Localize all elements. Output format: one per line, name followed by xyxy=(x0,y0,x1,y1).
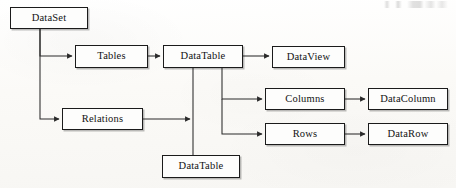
node-tables-label: Tables xyxy=(97,51,125,62)
node-datatable-child[interactable]: DataTable xyxy=(162,155,240,178)
node-datacolumn-label: DataColumn xyxy=(380,93,436,104)
node-datarow[interactable]: DataRow xyxy=(368,123,448,145)
edge-datatable-to-columns xyxy=(222,68,262,99)
edge-datatable-to-rows xyxy=(222,99,262,134)
diagram-canvas: DataSet Tables DataTable DataView Column… xyxy=(0,0,456,188)
node-relations-label: Relations xyxy=(82,113,123,124)
node-datacolumn[interactable]: DataColumn xyxy=(368,88,448,110)
node-relations[interactable]: Relations xyxy=(62,108,143,130)
node-rows[interactable]: Rows xyxy=(265,123,345,145)
node-columns-label: Columns xyxy=(285,93,324,104)
node-dataview-label: DataView xyxy=(287,51,331,62)
edge-dataset-to-tables xyxy=(40,29,72,56)
node-datatable-child-label: DataTable xyxy=(179,161,224,172)
node-dataview[interactable]: DataView xyxy=(272,46,345,68)
node-dataset-label: DataSet xyxy=(32,12,67,23)
node-datatable[interactable]: DataTable xyxy=(163,45,243,68)
node-rows-label: Rows xyxy=(293,128,318,139)
edge-dataset-to-relations xyxy=(40,29,59,119)
node-columns[interactable]: Columns xyxy=(265,88,345,110)
node-datatable-label: DataTable xyxy=(181,51,226,62)
node-dataset[interactable]: DataSet xyxy=(10,7,88,29)
node-datarow-label: DataRow xyxy=(387,128,428,139)
node-tables[interactable]: Tables xyxy=(75,45,148,68)
